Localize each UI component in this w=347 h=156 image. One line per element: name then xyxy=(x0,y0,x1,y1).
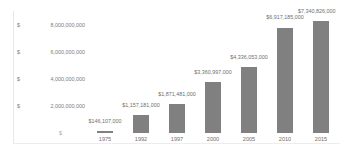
bar[interactable] xyxy=(133,115,149,133)
y-axis-tick-currency: $ xyxy=(59,128,62,138)
bar-value-label: $4,336,053,000 xyxy=(230,54,267,61)
bar-value-label: $3,360,997,000 xyxy=(194,69,231,76)
bar[interactable] xyxy=(277,28,293,133)
bar-value-label: $1,157,181,000 xyxy=(122,102,159,109)
y-axis-tick-currency: $ xyxy=(17,20,20,30)
bar-value-label: $6,917,185,000 xyxy=(266,14,303,21)
y-axis-tick-value: 2,000,000,000 xyxy=(51,101,85,111)
bar[interactable] xyxy=(97,131,113,133)
y-axis-tick-8b: $ 8,000,000,000 xyxy=(13,20,87,30)
bar[interactable] xyxy=(205,82,221,133)
y-axis-tick-4b: $ 4,000,000,000 xyxy=(13,74,87,84)
x-axis-tick-2005: 2005 xyxy=(231,134,267,144)
x-axis-tick-2010: 2010 xyxy=(267,134,303,144)
x-axis: 1975 1992 1997 2000 2005 2010 2015 xyxy=(87,134,340,146)
y-axis-tick-value: 4,000,000,000 xyxy=(51,74,85,84)
bar-slot-2010: $6,917,185,000 xyxy=(267,11,303,133)
x-axis-tick-2000: 2000 xyxy=(195,134,231,144)
bar-chart: $ 8,000,000,000 $ 6,000,000,000 $ 4,000,… xyxy=(0,0,347,156)
y-axis-tick-value: 8,000,000,000 xyxy=(51,20,85,30)
bar[interactable] xyxy=(169,104,185,133)
y-axis: $ 8,000,000,000 $ 6,000,000,000 $ 4,000,… xyxy=(13,0,87,156)
x-axis-tick-1997: 1997 xyxy=(159,134,195,144)
x-axis-tick-1975: 1975 xyxy=(87,134,123,144)
bar[interactable] xyxy=(241,67,257,133)
bar-slot-1997: $1,871,481,000 xyxy=(159,11,195,133)
plot-area: $146,107,000 $1,157,181,000 $1,871,481,0… xyxy=(87,11,340,133)
y-axis-tick-currency: $ xyxy=(17,74,20,84)
bar-slot-2000: $3,360,997,000 xyxy=(195,11,231,133)
bar-slot-1992: $1,157,181,000 xyxy=(123,11,159,133)
y-axis-tick-currency: $ xyxy=(17,101,20,111)
bar-value-label: $146,107,000 xyxy=(89,118,122,125)
y-axis-tick-0: $ xyxy=(13,128,87,138)
bar[interactable] xyxy=(313,21,329,133)
y-axis-tick-currency: $ xyxy=(17,47,20,57)
y-axis-tick-2b: $ 2,000,000,000 xyxy=(13,101,87,111)
x-axis-tick-2015: 2015 xyxy=(303,134,339,144)
bar-slot-2015: $7,340,826,000 xyxy=(303,11,339,133)
y-axis-tick-value: 6,000,000,000 xyxy=(51,47,85,57)
bar-slot-2005: $4,336,053,000 xyxy=(231,11,267,133)
y-axis-tick-6b: $ 6,000,000,000 xyxy=(13,47,87,57)
bar-slot-1975: $146,107,000 xyxy=(87,11,123,133)
x-axis-tick-1992: 1992 xyxy=(123,134,159,144)
bar-value-label: $7,340,826,000 xyxy=(298,8,335,15)
bar-value-label: $1,871,481,000 xyxy=(158,91,195,98)
